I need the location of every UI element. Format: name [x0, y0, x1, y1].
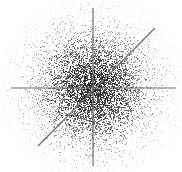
diagonal-trend-line — [38, 28, 155, 146]
scatter-plot-figure — [0, 0, 182, 172]
overlay-axis-lines — [0, 0, 182, 172]
